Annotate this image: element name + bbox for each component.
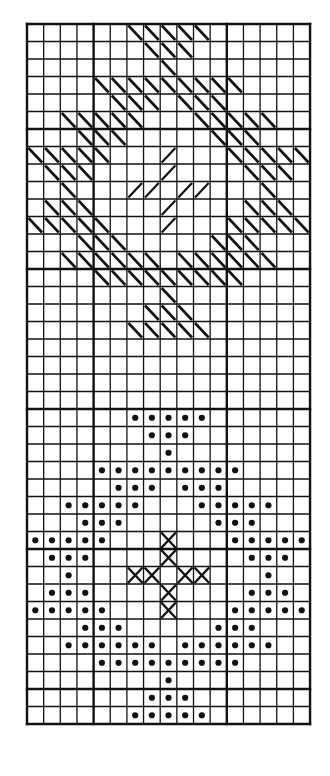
back-diagonal-stitch-icon [212,78,226,93]
back-diagonal-stitch-icon [95,78,109,93]
back-diagonal-stitch-icon [295,218,309,233]
forward-diagonal-stitch-icon [162,201,176,216]
cross-stitch-icon [161,533,176,549]
dot-stitch-icon [132,415,138,421]
dot-stitch-icon [182,432,188,438]
dot-stitch-icon [82,537,88,543]
back-diagonal-stitch-icon [45,148,59,163]
back-diagonal-stitch-icon [128,253,142,268]
dot-stitch-icon [232,537,238,543]
dot-stitch-icon [149,642,155,648]
dot-stitch-icon [165,660,171,666]
back-diagonal-stitch-icon [62,113,76,128]
back-diagonal-stitch-icon [195,96,209,111]
dot-stitch-icon [99,607,105,613]
dot-stitch-icon [282,555,288,561]
back-diagonal-stitch-icon [62,166,76,181]
back-diagonal-stitch-icon [195,113,209,128]
back-diagonal-stitch-icon [162,78,176,93]
dot-stitch-icon [182,642,188,648]
dot-stitch-icon [66,572,72,578]
back-diagonal-stitch-icon [78,131,92,146]
dot-stitch-icon [299,537,305,543]
forward-diagonal-stitch-icon [145,183,159,198]
back-diagonal-stitch-icon [178,78,192,93]
dot-stitch-icon [82,590,88,596]
back-diagonal-stitch-icon [195,253,209,268]
back-diagonal-stitch-icon [178,306,192,321]
back-diagonal-stitch-icon [228,218,242,233]
dot-stitch-icon [132,660,138,666]
dot-stitch-icon [249,625,255,631]
back-diagonal-stitch-icon [95,218,109,233]
back-diagonal-stitch-icon [145,43,159,58]
dot-stitch-icon [82,555,88,561]
back-diagonal-stitch-icon [228,271,242,286]
back-diagonal-stitch-icon [128,96,142,111]
back-diagonal-stitch-icon [145,253,159,268]
dot-stitch-icon [149,432,155,438]
back-diagonal-stitch-icon [245,201,259,216]
stitch-grid [25,22,312,726]
back-diagonal-stitch-icon [228,253,242,268]
back-diagonal-stitch-icon [145,96,159,111]
dot-stitch-icon [66,642,72,648]
back-diagonal-stitch-icon [112,236,126,251]
back-diagonal-stitch-icon [178,96,192,111]
dot-stitch-icon [249,537,255,543]
dot-stitch-icon [249,555,255,561]
dot-stitch-icon [215,467,221,473]
back-diagonal-stitch-icon [162,323,176,338]
dot-stitch-icon [215,502,221,508]
back-diagonal-stitch-icon [262,218,276,233]
dot-stitch-icon [32,537,38,543]
dot-stitch-icon [66,607,72,613]
dot-stitch-icon [232,642,238,648]
back-diagonal-stitch-icon [145,306,159,321]
back-diagonal-stitch-icon [95,236,109,251]
dot-stitch-icon [232,660,238,666]
dot-stitch-icon [282,607,288,613]
back-diagonal-stitch-icon [195,323,209,338]
dot-stitch-icon [82,625,88,631]
back-diagonal-stitch-icon [78,148,92,163]
back-diagonal-stitch-icon [212,131,226,146]
back-diagonal-stitch-icon [162,43,176,58]
back-diagonal-stitch-icon [112,271,126,286]
dot-stitch-icon [82,502,88,508]
dot-stitch-icon [132,467,138,473]
back-diagonal-stitch-icon [112,96,126,111]
dot-stitch-icon [182,712,188,718]
back-diagonal-stitch-icon [95,253,109,268]
dot-stitch-icon [149,660,155,666]
dot-stitch-icon [99,660,105,666]
back-diagonal-stitch-icon [212,96,226,111]
back-diagonal-stitch-icon [278,148,292,163]
dot-stitch-icon [49,555,55,561]
dot-stitch-icon [249,502,255,508]
dot-stitch-icon [82,607,88,613]
back-diagonal-stitch-icon [195,78,209,93]
back-diagonal-stitch-icon [162,306,176,321]
dot-stitch-icon [215,625,221,631]
back-diagonal-stitch-icon [128,113,142,128]
back-diagonal-stitch-icon [245,253,259,268]
back-diagonal-stitch-icon [195,271,209,286]
back-diagonal-stitch-icon [29,218,43,233]
cross-stitch-icon [161,585,176,601]
dot-stitch-icon [99,537,105,543]
dot-stitch-icon [232,520,238,526]
forward-diagonal-stitch-icon [162,166,176,181]
stitch-chart-sheet [0,0,330,776]
dot-stitch-icon [149,485,155,491]
back-diagonal-stitch-icon [95,113,109,128]
dot-stitch-icon [66,555,72,561]
dot-stitch-icon [215,660,221,666]
cross-stitch-icon [195,568,210,584]
dot-stitch-icon [232,467,238,473]
back-diagonal-stitch-icon [262,113,276,128]
back-diagonal-stitch-icon [78,113,92,128]
back-diagonal-stitch-icon [29,148,43,163]
dot-stitch-icon [66,590,72,596]
back-diagonal-stitch-icon [262,166,276,181]
